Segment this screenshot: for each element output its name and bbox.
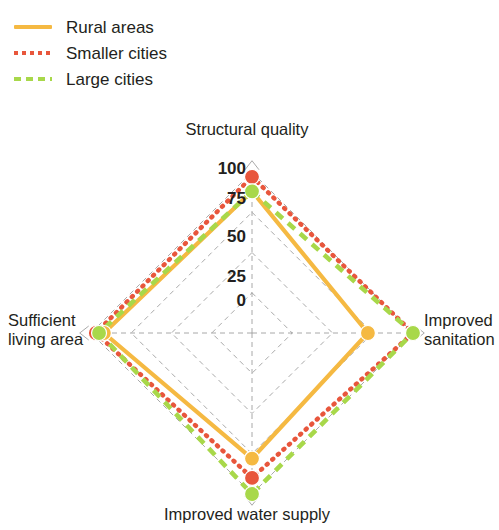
radar-data-point [360,326,375,341]
axis-label-sufficient-living-area: Sufficient living area [8,311,92,350]
radar-series-polygon [99,191,413,494]
radial-tick-75: 75 [190,190,246,207]
radial-tick-50: 50 [190,228,246,245]
radar-data-point [245,470,260,485]
axis-label-improved-water-supply: Improved water supply [0,505,494,524]
radar-data-point [245,169,260,184]
radar-marker-layer [88,169,420,501]
axis-label-structural-quality: Structural quality [0,120,494,139]
radar-data-point [245,487,260,502]
radar-data-point [406,326,421,341]
axis-arrow-icon [245,161,259,170]
radar-data-point [245,184,260,199]
radar-data-point [92,326,107,341]
radial-tick-25: 25 [190,268,246,285]
radar-data-point [245,451,260,466]
radial-tick-0: 0 [190,292,246,309]
radial-tick-100: 100 [190,160,246,177]
axis-label-improved-sanitation: Improved sanitation [424,311,499,350]
